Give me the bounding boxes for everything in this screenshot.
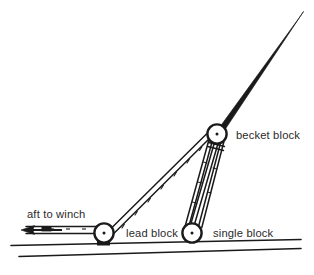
single-block	[182, 223, 201, 242]
deck-line-lower	[19, 249, 301, 257]
deck-line-upper	[11, 240, 301, 246]
label-aft-to-winch: aft to winch	[27, 208, 85, 220]
standing-part-edge-outer	[111, 130, 211, 229]
becket-block	[207, 124, 226, 143]
deck-lines	[11, 240, 301, 257]
rigging-diagram: aft to winch lead block single block bec…	[0, 0, 314, 275]
becket-block-pin	[216, 133, 219, 136]
standing-part-edge-inner	[114, 135, 213, 234]
rigging-illustration: aft to winch lead block single block bec…	[0, 0, 314, 275]
hauling-part	[21, 226, 98, 235]
spar-body	[220, 12, 303, 130]
tackle-falls	[185, 140, 225, 230]
standing-part-lay-marks	[122, 147, 202, 228]
lead-block-pin	[103, 232, 106, 235]
label-single-block: single block	[213, 227, 274, 239]
single-block-pin	[191, 232, 194, 235]
spar	[213, 12, 303, 137]
label-lead-block: lead block	[126, 227, 178, 239]
lead-block	[94, 223, 113, 242]
label-becket-block: becket block	[236, 129, 300, 141]
